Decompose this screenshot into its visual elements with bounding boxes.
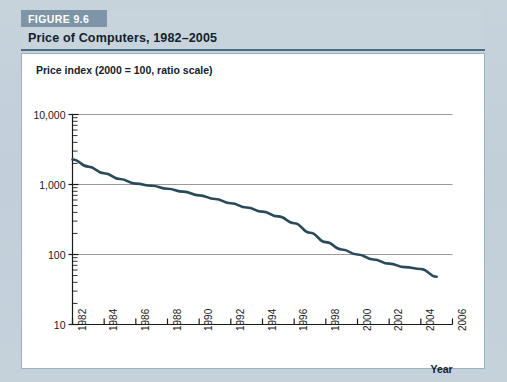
x-axis-title: Year <box>431 363 453 375</box>
figure-header-band <box>107 10 485 27</box>
chart-panel: Price index (2000 = 100, ratio scale) 10… <box>21 53 485 369</box>
figure-block: FIGURE 9.6 Price of Computers, 1982–2005… <box>21 10 485 369</box>
chart-svg <box>22 54 486 370</box>
x-tick-label: 2006 <box>457 308 468 330</box>
plot-area: 10,0001,00010010198219841986198819901992… <box>22 54 486 370</box>
data-line-price-index <box>73 159 437 276</box>
x-tick-label: 2000 <box>362 308 373 330</box>
x-tick-label: 1992 <box>235 308 246 330</box>
x-tick-label: 1984 <box>108 308 119 330</box>
x-tick-label: 1998 <box>330 308 341 330</box>
figure-title: Price of Computers, 1982–2005 <box>28 31 217 45</box>
figure-title-band: Price of Computers, 1982–2005 <box>21 27 485 51</box>
x-tick-label: 1996 <box>298 308 309 330</box>
y-tick-label: 100 <box>22 249 66 261</box>
x-tick-label: 1994 <box>267 308 278 330</box>
x-tick-label: 1990 <box>203 308 214 330</box>
x-tick-label: 2002 <box>393 308 404 330</box>
figure-number-badge: FIGURE 9.6 <box>21 10 107 27</box>
y-tick-label: 1,000 <box>22 179 66 191</box>
x-tick-label: 1986 <box>140 308 151 330</box>
x-tick-label: 1982 <box>77 308 88 330</box>
y-tick-label: 10 <box>22 319 66 331</box>
y-tick-label: 10,000 <box>22 109 66 121</box>
x-tick-label: 2004 <box>425 308 436 330</box>
figure-number-label: FIGURE 9.6 <box>28 13 89 25</box>
x-tick-label: 1988 <box>172 308 183 330</box>
